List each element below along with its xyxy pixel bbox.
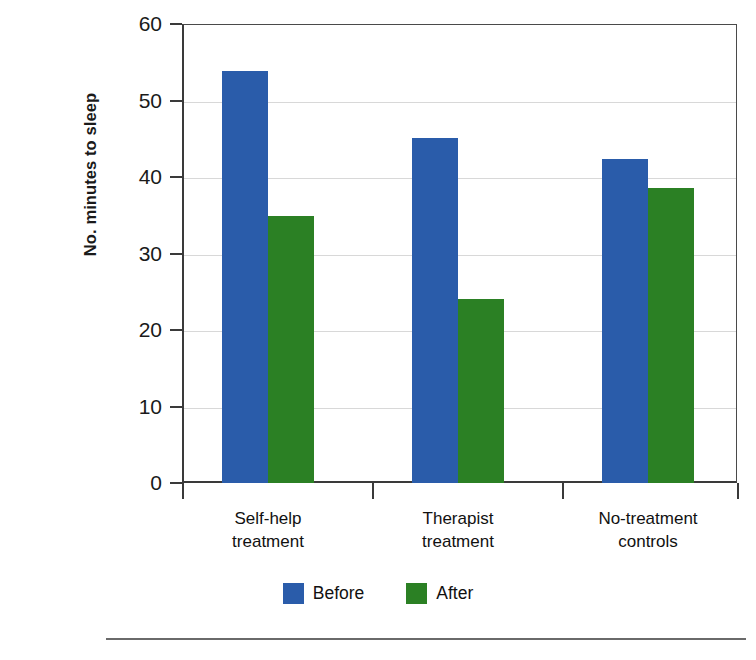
bar-after-group-3 bbox=[648, 188, 694, 483]
x-axis-category-label: Self-help treatment bbox=[178, 507, 358, 553]
bar-before-group-1 bbox=[222, 71, 268, 483]
chart-legend: BeforeAfter bbox=[0, 583, 756, 604]
legend-label: Before bbox=[313, 583, 365, 604]
legend-label: After bbox=[436, 583, 473, 604]
x-axis-tick-mark bbox=[182, 483, 184, 499]
x-axis-tick-mark bbox=[737, 483, 739, 499]
x-axis-category-label: No-treatment controls bbox=[558, 507, 738, 553]
bar-before-group-2 bbox=[412, 138, 458, 483]
bar-after-group-1 bbox=[268, 216, 314, 483]
bar-after-group-2 bbox=[458, 299, 504, 483]
x-axis-tick-mark bbox=[562, 483, 564, 499]
footer-rule bbox=[106, 638, 746, 640]
legend-swatch-icon bbox=[406, 583, 427, 604]
bars-layer bbox=[0, 0, 756, 483]
bar-chart-figure: No. minutes to sleep 0102030405060 Self-… bbox=[0, 0, 756, 660]
bar-before-group-3 bbox=[602, 159, 648, 483]
legend-item-before: Before bbox=[283, 583, 365, 604]
x-axis-tick-mark bbox=[372, 483, 374, 499]
legend-swatch-icon bbox=[283, 583, 304, 604]
legend-item-after: After bbox=[406, 583, 473, 604]
x-axis-category-label: Therapist treatment bbox=[368, 507, 548, 553]
